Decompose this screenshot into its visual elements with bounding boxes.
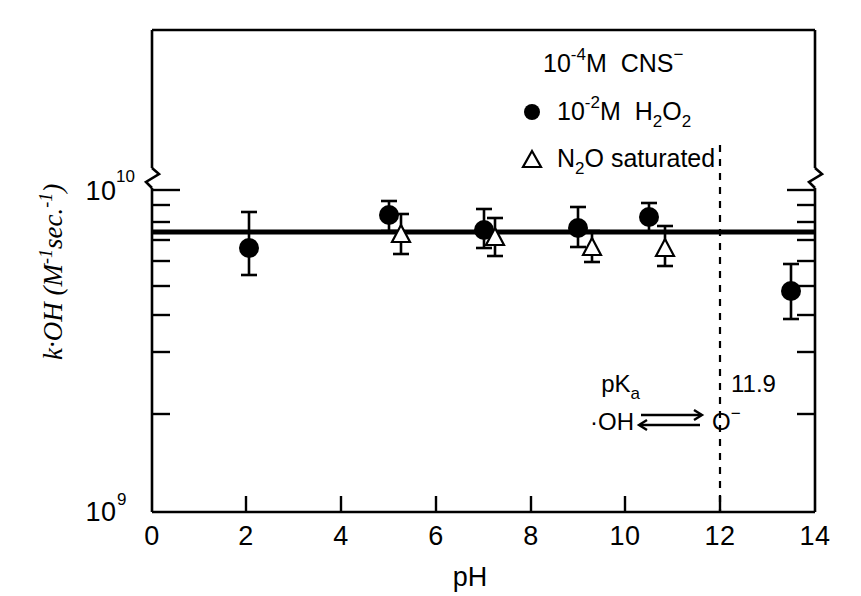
data-point bbox=[781, 264, 801, 319]
svg-text:k·OH (M-1sec.-1): k·OH (M-1sec.-1) bbox=[36, 184, 68, 360]
y-title-paren: (M bbox=[38, 263, 68, 303]
y-tick-bottom-exp: 9 bbox=[117, 490, 126, 509]
x-tick-label: 6 bbox=[428, 521, 444, 551]
pka-prefix: pK bbox=[601, 370, 630, 397]
legend-entry-h2o2: 10-2M H2O2 bbox=[524, 93, 691, 131]
equilibrium-arrow-icon bbox=[639, 410, 702, 430]
legend: 10-4M CNS− 10-2M H2O2 N2O saturated bbox=[523, 45, 715, 178]
x-axis-title: pH bbox=[453, 562, 488, 592]
data-point bbox=[639, 203, 659, 232]
y-axis-label-top: 10 10 bbox=[85, 167, 134, 206]
legend-entry2-sub1: 2 bbox=[575, 159, 584, 178]
x-tick-label: 2 bbox=[238, 521, 254, 551]
legend-entry-base: 10 bbox=[557, 97, 585, 125]
legend-marker-open-triangle bbox=[523, 151, 541, 167]
svg-text:10-2M H2O2: 10-2M H2O2 bbox=[557, 93, 691, 131]
pka-subscript: a bbox=[631, 384, 641, 403]
x-axis-tick-labels: 0 2 4 6 8 10 12 14 bbox=[144, 521, 830, 551]
x-tick-label: 14 bbox=[799, 521, 830, 551]
x-tick-label: 12 bbox=[704, 521, 735, 551]
svg-text:O−: O− bbox=[712, 404, 741, 435]
data-point bbox=[379, 201, 399, 231]
legend-header-charge: − bbox=[673, 45, 683, 64]
x-tick-label: 10 bbox=[609, 521, 640, 551]
series-h2o2 bbox=[239, 201, 801, 319]
pka-value: 11.9 bbox=[731, 370, 776, 397]
x-axis-ticks bbox=[246, 496, 720, 512]
x-tick-label: 8 bbox=[523, 521, 539, 551]
y-axis-break-left bbox=[146, 168, 159, 188]
y-axis-label-bottom: 10 9 bbox=[85, 490, 126, 527]
series-n2o bbox=[392, 214, 674, 266]
legend-header: 10-4M CNS− bbox=[543, 45, 683, 77]
legend-entry-rest: M H bbox=[600, 97, 653, 125]
svg-text:N2O saturated: N2O saturated bbox=[557, 144, 715, 178]
x-tick-label: 4 bbox=[333, 521, 349, 551]
legend-marker-filled-circle bbox=[524, 104, 540, 120]
x-tick-label: 0 bbox=[144, 521, 160, 551]
legend-entry-sub1: 2 bbox=[653, 112, 662, 131]
y-axis-title: k·OH (M-1sec.-1) bbox=[36, 184, 68, 360]
y-axis-ticks-left bbox=[152, 190, 180, 414]
species-right-charge: − bbox=[731, 404, 741, 423]
chart-svg: 10 10 10 9 0 2 4 6 8 10 12 14 pH k·OH (M… bbox=[0, 0, 861, 596]
y-axis-break-right bbox=[809, 168, 822, 188]
legend-entry-n2o: N2O saturated bbox=[523, 144, 715, 178]
svg-text:10-4M CNS−: 10-4M CNS− bbox=[543, 45, 683, 77]
y-title-radical: ·OH bbox=[38, 301, 68, 348]
species-right-label: O bbox=[712, 408, 731, 435]
legend-entry-exp: -2 bbox=[585, 93, 600, 112]
legend-header-rest: M CNS bbox=[586, 49, 674, 77]
y-title-close: ) bbox=[38, 184, 68, 195]
svg-text:pKa: pKa bbox=[601, 370, 640, 403]
data-point bbox=[239, 212, 259, 275]
y-title-exp2: -1 bbox=[36, 193, 56, 208]
legend-header-exp: -4 bbox=[571, 45, 586, 64]
legend-entry-mid: O bbox=[662, 97, 681, 125]
pka-annotation: pKa 11.9 ·OH O− bbox=[590, 370, 776, 435]
y-tick-bottom-base: 10 bbox=[85, 497, 116, 527]
figure-container: 10 10 10 9 0 2 4 6 8 10 12 14 pH k·OH (M… bbox=[0, 0, 861, 596]
legend-entry2-mid: O saturated bbox=[585, 144, 716, 172]
y-title-sec: sec. bbox=[38, 208, 68, 249]
legend-entry-sub2: 2 bbox=[682, 112, 691, 131]
legend-header-base: 10 bbox=[543, 49, 571, 77]
y-title-exp1: -1 bbox=[36, 249, 56, 264]
y-tick-top-exp: 10 bbox=[116, 167, 135, 186]
legend-entry2-pre: N bbox=[557, 144, 575, 172]
y-tick-top-base: 10 bbox=[85, 176, 116, 206]
data-point bbox=[568, 207, 588, 247]
species-left-label: ·OH bbox=[590, 408, 634, 435]
